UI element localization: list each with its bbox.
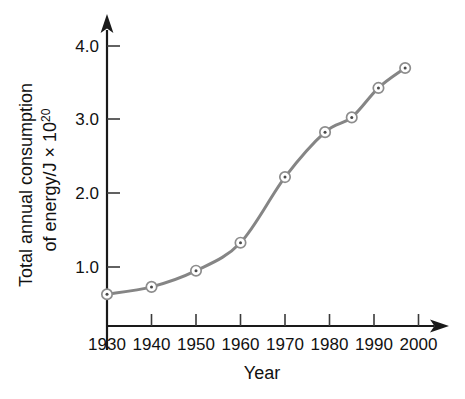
marker-dot-1979 bbox=[324, 131, 327, 134]
y-tick-label-1: 1.0 bbox=[75, 258, 99, 277]
y-axis-title-line2: of energy/J × 1020 bbox=[39, 108, 60, 251]
data-point-marker bbox=[347, 112, 357, 122]
data-point-marker bbox=[320, 127, 330, 137]
x-tick-label-1960: 1960 bbox=[222, 335, 260, 354]
line-chart: Total annual consumption of energy/J × 1… bbox=[0, 0, 465, 399]
x-axis-ticks bbox=[152, 314, 419, 326]
x-tick-label-2000: 2000 bbox=[400, 335, 438, 354]
data-point-marker bbox=[235, 237, 245, 247]
x-tick-label-1930: 1930 bbox=[88, 335, 126, 354]
marker-dot-1960 bbox=[239, 241, 242, 244]
marker-dot-1930 bbox=[106, 293, 109, 296]
y-tick-labels: 4.0 3.0 2.0 1.0 bbox=[75, 37, 99, 277]
marker-dot-1985 bbox=[350, 116, 353, 119]
marker-dot-1950 bbox=[195, 269, 198, 272]
marker-dot-1997 bbox=[404, 67, 407, 70]
x-axis bbox=[107, 320, 449, 333]
y-axis-title-exponent: 20 bbox=[39, 108, 53, 122]
data-point-marker bbox=[146, 282, 156, 292]
marker-dot-1991 bbox=[377, 86, 380, 89]
data-point-marker bbox=[400, 63, 410, 73]
x-tick-labels: 1930 1940 1950 1960 1970 1980 1990 2000 bbox=[88, 335, 437, 354]
x-tick-label-1970: 1970 bbox=[266, 335, 304, 354]
x-tick-label-1990: 1990 bbox=[355, 335, 393, 354]
y-axis-title-line2-text: of energy/J × 10 bbox=[40, 122, 60, 252]
data-point-marker bbox=[191, 265, 201, 275]
chart-figure: Total annual consumption of energy/J × 1… bbox=[0, 0, 465, 399]
data-point-marker bbox=[280, 172, 290, 182]
x-tick-label-1940: 1940 bbox=[133, 335, 171, 354]
series-markers bbox=[102, 63, 411, 300]
y-tick-label-3: 3.0 bbox=[75, 110, 99, 129]
data-point-marker bbox=[373, 83, 383, 93]
y-tick-label-2: 2.0 bbox=[75, 184, 99, 203]
marker-dot-1970 bbox=[284, 176, 287, 179]
y-axis-title-line1: Total annual consumption bbox=[16, 83, 36, 287]
series-line bbox=[107, 68, 405, 294]
marker-dot-1940 bbox=[150, 285, 153, 288]
data-point-marker bbox=[102, 289, 112, 299]
x-axis-title: Year bbox=[244, 363, 280, 383]
y-tick-label-4: 4.0 bbox=[75, 37, 99, 56]
y-axis-title: Total annual consumption of energy/J × 1… bbox=[16, 83, 60, 287]
x-tick-label-1980: 1980 bbox=[311, 335, 349, 354]
y-axis-ticks bbox=[107, 46, 120, 267]
x-tick-label-1950: 1950 bbox=[177, 335, 215, 354]
